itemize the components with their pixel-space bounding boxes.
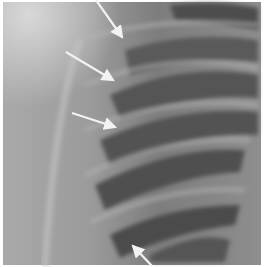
xray-image xyxy=(0,0,265,267)
radiograph xyxy=(0,0,265,267)
